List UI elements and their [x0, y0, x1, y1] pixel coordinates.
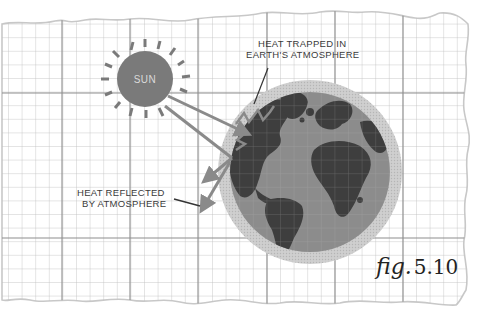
heat-trapped-line2: EARTH'S ATMOSPHERE	[246, 49, 360, 60]
heat-reflected-label: HEAT REFLECTED BY ATMOSPHERE	[77, 187, 166, 209]
figure-prefix: fig.	[376, 254, 412, 279]
figure-caption: fig.5.10	[376, 254, 458, 279]
sun-label: SUN	[134, 74, 157, 85]
heat-reflected-line1: HEAT REFLECTED	[77, 187, 166, 198]
heat-trapped-label: HEAT TRAPPED IN EARTH'S ATMOSPHERE	[246, 38, 360, 60]
figure-number: 5.10	[414, 255, 459, 279]
greenhouse-diagram: SUN	[0, 0, 481, 313]
heat-trapped-line1: HEAT TRAPPED IN	[246, 38, 360, 49]
heat-reflected-line2: BY ATMOSPHERE	[77, 198, 166, 209]
